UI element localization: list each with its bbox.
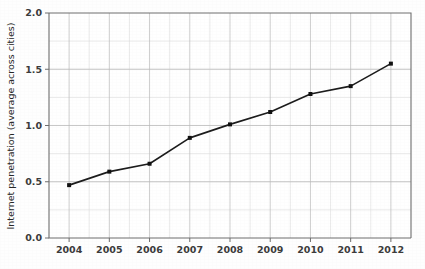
x-tick-label: 2012 — [378, 244, 404, 255]
x-tick-label: 2004 — [56, 244, 83, 255]
x-tick-label: 2008 — [217, 244, 244, 255]
y-tick-label: 1.0 — [25, 120, 42, 131]
y-tick-label: 0.5 — [25, 176, 42, 187]
data-point-marker — [107, 170, 111, 174]
data-point-marker — [67, 183, 71, 187]
data-point-marker — [148, 162, 152, 166]
data-point-marker — [349, 84, 353, 88]
y-axis-title: Internet penetration (average across cit… — [5, 23, 16, 230]
x-tick-label: 2011 — [337, 244, 363, 255]
x-tick-label: 2010 — [297, 244, 324, 255]
data-point-marker — [268, 110, 272, 114]
data-point-marker — [188, 136, 192, 140]
y-tick-label: 2.0 — [25, 7, 42, 18]
x-tick-label: 2007 — [177, 244, 203, 255]
x-axis-tick-labels: 200420052006200720082009201020112012 — [56, 244, 404, 255]
y-tick-label: 1.5 — [25, 64, 42, 75]
data-point-marker — [228, 122, 232, 126]
data-point-marker — [389, 62, 393, 66]
data-point-marker — [308, 92, 312, 96]
x-tick-label: 2006 — [136, 244, 163, 255]
chart-canvas: 0.00.51.01.52.0 200420052006200720082009… — [0, 0, 425, 269]
x-tick-label: 2009 — [257, 244, 283, 255]
x-tick-label: 2005 — [96, 244, 122, 255]
y-tick-label: 0.0 — [25, 232, 42, 243]
line-chart-figure: 0.00.51.01.52.0 200420052006200720082009… — [0, 0, 425, 269]
